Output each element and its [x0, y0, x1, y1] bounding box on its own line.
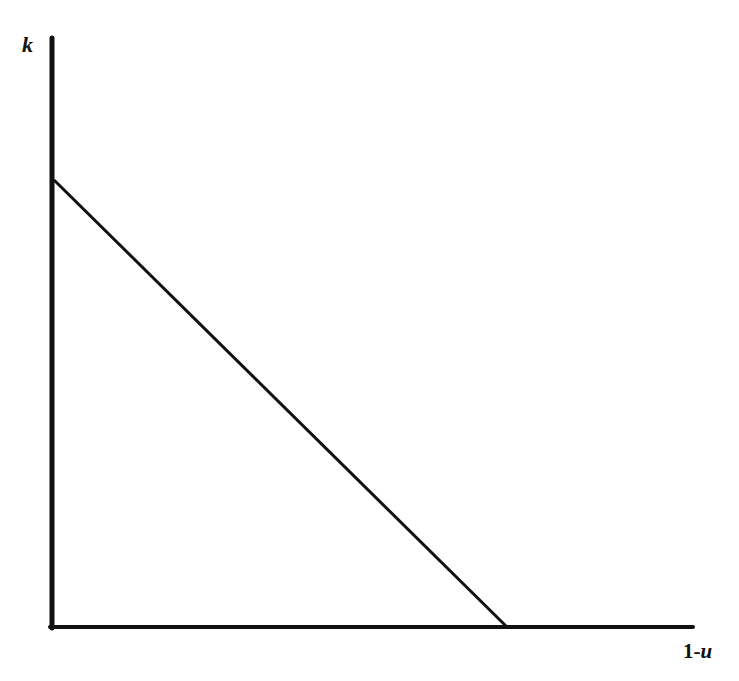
y-axis-label: k — [22, 34, 33, 56]
x-axis-label-variable: u — [701, 639, 713, 663]
x-axis-label: 1-u — [683, 641, 712, 662]
diagram-canvas — [0, 0, 739, 681]
diagram: k 1-u — [0, 0, 739, 681]
frontier-line — [54, 180, 507, 627]
x-axis-label-prefix: 1- — [683, 639, 701, 663]
